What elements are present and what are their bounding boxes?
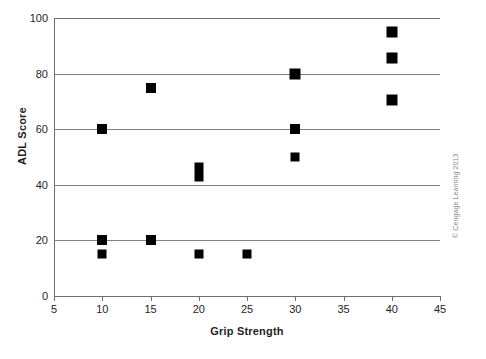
gridline-100 [54,18,440,19]
data-point [98,250,107,259]
data-point [243,250,252,259]
x-tick-label: 40 [386,303,398,315]
x-tick-mark [151,296,152,301]
x-tick-label: 20 [193,303,205,315]
x-tick-mark [440,296,441,301]
x-tick-label: 15 [144,303,156,315]
y-tick-label: 40 [36,179,48,191]
data-point [386,95,397,106]
gridline-40 [54,185,440,186]
x-tick-mark [102,296,103,301]
x-tick-mark [247,296,248,301]
y-tick-label: 20 [36,234,48,246]
data-point [290,124,300,134]
x-tick-label: 10 [96,303,108,315]
data-point [290,68,301,79]
y-axis-title: ADL Score [16,96,28,176]
x-tick-mark [54,296,55,301]
data-point [146,83,156,93]
y-tick-label: 80 [36,68,48,80]
x-axis-title: Grip Strength [54,325,440,337]
data-point [97,235,107,245]
gridline-60 [54,129,440,130]
x-tick-mark [199,296,200,301]
data-point [291,153,300,162]
y-tick-label-group: 100 80 60 40 20 0 [0,0,48,359]
gridline-20 [54,240,440,241]
x-tick-label: 30 [289,303,301,315]
data-point [194,250,203,259]
x-tick-label: 45 [434,303,446,315]
copyright-credit: © Cengage Learning 2013 [452,128,459,238]
data-point [97,124,107,134]
gridline-80 [54,74,440,75]
x-tick-mark [392,296,393,301]
y-tick-label: 100 [30,12,48,24]
y-tick-label: 60 [36,123,48,135]
data-point [194,163,203,182]
scatter-plot-figure: 100 80 60 40 20 0 [0,0,486,359]
data-point [386,26,397,37]
x-tick-label: 35 [337,303,349,315]
plot-area [54,18,440,296]
x-tick-mark [295,296,296,301]
x-tick-mark [344,296,345,301]
y-tick-label: 0 [42,290,48,302]
x-tick-label: 25 [241,303,253,315]
x-tick-label: 5 [51,303,57,315]
data-point [386,53,397,64]
data-point [146,235,156,245]
